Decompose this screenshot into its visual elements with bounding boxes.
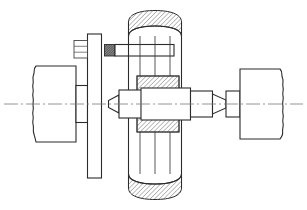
- housing-top-cap-section: [129, 11, 182, 37]
- flange-hex-nut: [74, 41, 88, 59]
- assembly-drawing: [0, 0, 307, 210]
- horizontal-tie-rod: [115, 45, 174, 57]
- coupling-flange-disc: [88, 34, 102, 178]
- engineering-drawing-canvas: [0, 0, 307, 210]
- housing-bottom-cap-section: [129, 174, 182, 200]
- threaded-rod-end: [105, 45, 116, 57]
